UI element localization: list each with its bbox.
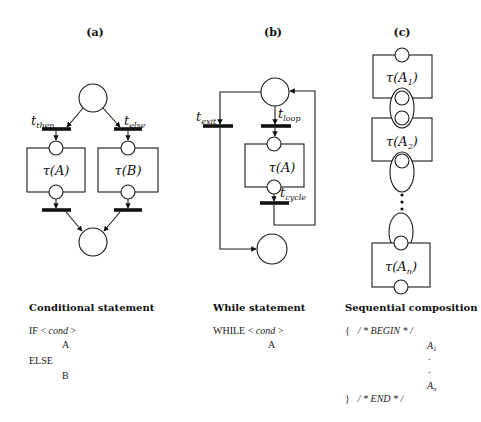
subnet-a-label: τ(A) bbox=[43, 163, 70, 178]
transition-loop-label: tloop bbox=[278, 106, 301, 123]
panel-c-title: Sequential composition bbox=[345, 302, 478, 313]
arc-start-then bbox=[67, 108, 83, 127]
panel-a-title: Conditional statement bbox=[29, 302, 155, 313]
place-loop-head bbox=[261, 78, 289, 106]
panel-a-conditional: (a) tthen telse τ(A) τ(B) bbox=[27, 26, 158, 381]
place-end bbox=[79, 228, 107, 256]
ellipsis-dot bbox=[400, 200, 403, 203]
code-while-body: A bbox=[268, 339, 276, 350]
panel-a-label: (a) bbox=[86, 26, 104, 39]
code-while-line: WHILE < cond > bbox=[213, 325, 284, 336]
code-begin-line: {/ * BEGIN * / bbox=[345, 325, 414, 336]
ellipsis-dot bbox=[400, 207, 403, 210]
subnet-loop-label: τ(A) bbox=[269, 160, 296, 175]
code-dot: . bbox=[428, 351, 431, 362]
transition-exit-label: texit bbox=[196, 109, 217, 126]
code-then-body: A bbox=[62, 339, 70, 350]
ellipsis-dot bbox=[400, 193, 403, 196]
transition-then-label: tthen bbox=[31, 113, 55, 130]
code-if-line: IF < cond > bbox=[29, 325, 77, 336]
panel-b-while: (b) texit tloop τ(A) tcycle While statem… bbox=[196, 26, 315, 350]
panel-c-sequential: (c) τ(A1) τ(A2) τ(An) Sequential composi… bbox=[345, 26, 478, 404]
arc-start-else bbox=[103, 108, 120, 127]
subnet-1-label: τ(A1) bbox=[386, 70, 418, 87]
code-dot: . bbox=[428, 364, 431, 375]
panel-c-label: (c) bbox=[393, 26, 410, 39]
subnet-n-label: τ(An) bbox=[385, 259, 417, 276]
panel-b-label: (b) bbox=[264, 26, 282, 39]
panel-b-title: While statement bbox=[212, 302, 306, 313]
place-loop-exit bbox=[257, 234, 287, 264]
code-item-last: An bbox=[426, 380, 437, 393]
code-else-line: ELSE bbox=[29, 355, 53, 366]
transition-cycle-label: tcycle bbox=[280, 185, 306, 202]
code-end-line: }/ * END * / bbox=[345, 393, 405, 404]
petri-net-figure: (a) tthen telse τ(A) τ(B) bbox=[0, 0, 481, 422]
place-start bbox=[79, 84, 107, 112]
subnet-2-label: τ(A2) bbox=[386, 134, 418, 151]
transition-else-label: telse bbox=[124, 113, 146, 130]
subnet-b-label: τ(B) bbox=[115, 163, 142, 178]
code-else-body: B bbox=[62, 370, 69, 381]
